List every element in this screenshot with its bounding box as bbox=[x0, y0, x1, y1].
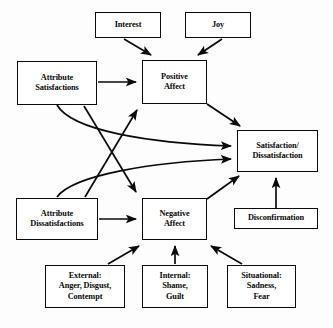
node-joy[interactable]: Joy bbox=[185, 12, 251, 38]
node-internal-label: Internal: Shame, Guilt bbox=[158, 271, 193, 301]
node-internal[interactable]: Internal: Shame, Guilt bbox=[142, 265, 208, 308]
edge-negative-affect-to-satisfaction-dissatisfaction bbox=[207, 176, 239, 199]
node-interest-label: Interest bbox=[113, 20, 144, 30]
node-attribute-satisfactions[interactable]: Attribute Satisfactions bbox=[17, 61, 97, 105]
node-external-label: External: Anger, Disgust, Contempt bbox=[57, 271, 113, 301]
edge-situational-to-negative-affect bbox=[211, 246, 242, 264]
node-satisfaction-dissatisfaction-label: Satisfaction/ Dissatisfaction bbox=[250, 141, 304, 161]
node-attribute-dissatisfactions-label: Attribute Dissatisfactions bbox=[28, 209, 85, 229]
node-joy-label: Joy bbox=[210, 20, 226, 30]
edge-interest-to-positive-affect bbox=[124, 39, 151, 55]
node-attribute-satisfactions-label: Attribute Satisfactions bbox=[33, 73, 80, 93]
edge-joy-to-positive-affect bbox=[198, 39, 222, 55]
edge-attribute-satisfactions-to-satisfaction-dissatisfaction bbox=[57, 105, 231, 146]
node-disconfirmation-label: Disconfirmation bbox=[246, 213, 306, 223]
edge-attribute-dissatisfactions-to-satisfaction-dissatisfaction bbox=[57, 159, 231, 197]
node-situational[interactable]: Situational: Sadness, Fear bbox=[227, 265, 296, 308]
node-interest[interactable]: Interest bbox=[95, 12, 161, 38]
node-external[interactable]: External: Anger, Disgust, Contempt bbox=[45, 265, 125, 308]
edge-attribute-satisfactions-to-negative-affect bbox=[84, 106, 136, 192]
node-positive-affect-label: Positive Affect bbox=[159, 72, 190, 92]
edge-positive-affect-to-satisfaction-dissatisfaction bbox=[207, 104, 240, 126]
node-positive-affect[interactable]: Positive Affect bbox=[142, 60, 207, 104]
node-negative-affect[interactable]: Negative Affect bbox=[142, 198, 207, 240]
node-situational-label: Situational: Sadness, Fear bbox=[239, 271, 283, 301]
edge-attribute-dissatisfactions-to-positive-affect bbox=[85, 110, 137, 197]
node-negative-affect-label: Negative Affect bbox=[157, 209, 191, 229]
node-attribute-dissatisfactions[interactable]: Attribute Dissatisfactions bbox=[16, 198, 98, 240]
node-satisfaction-dissatisfaction[interactable]: Satisfaction/ Dissatisfaction bbox=[237, 130, 318, 172]
node-disconfirmation[interactable]: Disconfirmation bbox=[234, 208, 318, 229]
edge-external-to-negative-affect bbox=[108, 246, 139, 264]
affect-model-diagram: Interest Joy Attribute Satisfactions Pos… bbox=[0, 0, 333, 328]
